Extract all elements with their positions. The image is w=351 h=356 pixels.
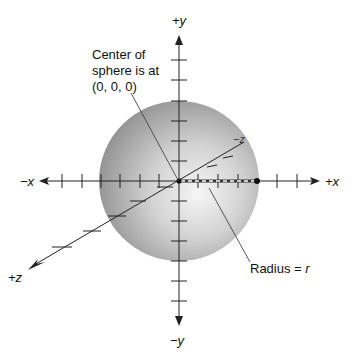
pos-y-arrow-icon: [175, 35, 183, 45]
radius-variable: r: [305, 261, 309, 276]
neg-z-label: −z: [233, 132, 245, 147]
sphere-diagram: [0, 0, 351, 356]
pos-x-label: +x: [325, 174, 339, 189]
neg-y-label: −y: [170, 333, 184, 348]
center-annotation-line1: Center of: [92, 47, 159, 63]
neg-y-arrow-icon: [175, 316, 183, 326]
neg-x-label: −x: [20, 174, 34, 189]
pos-y-label: +y: [172, 13, 186, 28]
radius-annotation: Radius = r: [250, 261, 310, 276]
center-annotation-line3: (0, 0, 0): [92, 79, 159, 95]
pos-z-label: +z: [8, 270, 22, 285]
center-annotation-line2: sphere is at: [92, 63, 159, 79]
surface-point: [254, 178, 260, 184]
pos-z-arrow-icon: [28, 259, 45, 270]
radius-annotation-text: Radius =: [250, 261, 305, 276]
center-annotation: Center of sphere is at (0, 0, 0): [92, 47, 159, 95]
